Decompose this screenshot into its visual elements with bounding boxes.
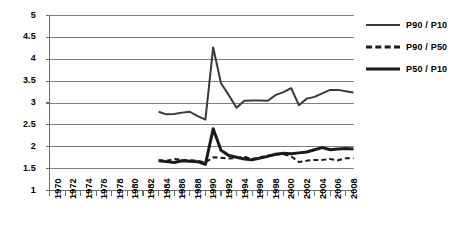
x-axis-tick-label: 1996 [256, 178, 265, 199]
legend-label: P50 / P10 [406, 64, 447, 74]
legend-swatch-line [366, 46, 400, 49]
x-axis-tick-label: 1990 [209, 178, 218, 199]
x-axis-tick-label: 2002 [303, 178, 312, 199]
legend-item: P90 / P50 [366, 36, 476, 58]
x-axis-tick-label: 2000 [287, 178, 296, 199]
x-axis-tick-label: 2004 [319, 178, 328, 199]
legend-swatch-line [366, 24, 400, 26]
x-axis-tick-label: 1992 [225, 178, 234, 199]
chart-container: 54.543.532.521.51 1970197219741976197819… [0, 0, 476, 235]
x-axis-tick-label: 1988 [194, 178, 203, 199]
x-axis-tick-label: 1998 [272, 178, 281, 199]
legend-label: P90 / P10 [406, 20, 447, 30]
x-axis-tick-label: 2008 [350, 178, 359, 199]
chart-legend: P90 / P10P90 / P50P50 / P10 [366, 14, 476, 80]
x-axis-tick-label: 1986 [178, 178, 187, 199]
x-axis-tick-label: 1994 [241, 178, 250, 199]
x-axis-tick-label: 1970 [54, 178, 63, 199]
x-axis-tick-label: 1980 [131, 178, 140, 199]
legend-label: P90 / P50 [406, 42, 447, 52]
legend-swatch-line [366, 68, 400, 71]
legend-swatch-icon [366, 20, 400, 30]
x-axis-tick-label: 1976 [100, 178, 109, 199]
legend-item: P90 / P10 [366, 14, 476, 36]
legend-item: P50 / P10 [366, 58, 476, 80]
x-axis-tick-label: 2006 [334, 178, 343, 199]
x-axis-tick-label: 1982 [147, 178, 156, 199]
x-axis-tick-label: 1984 [163, 178, 172, 199]
x-axis-tick-label: 1978 [116, 178, 125, 199]
x-axis-tick-label: 1974 [85, 178, 94, 199]
x-axis-tick-label: 1972 [69, 178, 78, 199]
legend-swatch-icon [366, 42, 400, 52]
legend-swatch-icon [366, 64, 400, 74]
